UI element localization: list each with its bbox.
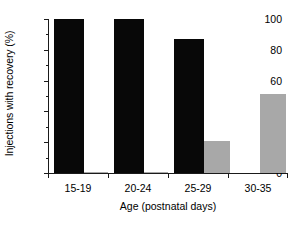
x-category-label-2: 25-29 xyxy=(168,182,228,194)
x-category-label-0: 15-19 xyxy=(48,182,108,194)
bar-black-20-24 xyxy=(114,19,144,173)
bar-gray-30-35 xyxy=(260,94,286,173)
x-category-label-3: 30-35 xyxy=(228,182,288,194)
bars-container xyxy=(48,14,288,173)
y-axis-title: Injections with recovery (%) xyxy=(2,7,16,180)
bar-black-15-19 xyxy=(54,19,84,173)
bar-gray-15-19 xyxy=(84,172,108,173)
bar-black-25-29 xyxy=(174,39,204,173)
bar-gray-20-24 xyxy=(144,172,168,173)
x-tick-1 xyxy=(108,174,109,178)
bar-gray-25-29 xyxy=(204,141,230,173)
x-axis-title: Age (postnatal days) xyxy=(48,200,288,213)
chart-figure: Injections with recovery (%) 0 20 40 60 … xyxy=(0,0,295,226)
x-tick-0 xyxy=(48,174,49,178)
x-tick-2 xyxy=(168,174,169,178)
x-tick-3 xyxy=(228,174,229,178)
plot-area: 0 20 40 60 80 100 xyxy=(48,14,288,173)
x-tick-4 xyxy=(287,174,288,178)
x-category-label-1: 20-24 xyxy=(108,182,168,194)
